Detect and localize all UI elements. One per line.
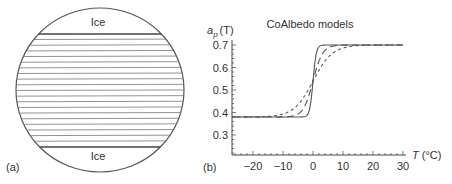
x-tick-label: 10 [337,160,349,172]
x-tick-label: 0 [310,160,316,172]
y-tick-label: 0.6 [213,62,228,74]
chart-title: CoAlbedo models [267,18,354,30]
ice-bottom-label: Ice [91,150,106,162]
y-tick-label: 0.7 [213,39,228,51]
band-line [0,96,200,97]
x-tick-label: −10 [274,160,293,172]
figure-canvas: Ice Ice (a) CoAlbedo models ap(T) 0.30.4… [0,0,452,184]
band-line [0,113,200,114]
y-tick-label: 0.3 [213,129,228,141]
y-tick-label: 0.5 [213,84,228,96]
x-tick-label: −20 [244,160,263,172]
band-line [0,62,200,63]
band-line [0,39,200,40]
curve-solid [232,45,403,117]
band-line [0,130,200,131]
band-line [0,107,200,108]
panel-a: Ice Ice (a) [0,8,200,173]
chart-axes [232,40,406,155]
band-line [0,141,200,142]
band-line [0,84,200,85]
panel-b: CoAlbedo models ap(T) 0.30.40.50.60.7 −2… [203,18,441,173]
band-line [0,124,200,125]
band-line [0,73,200,74]
curve-long-dash [232,45,403,117]
ice-top-label: Ice [91,16,106,28]
panel-b-label: (b) [203,161,216,173]
x-tick-label: 30 [397,160,409,172]
band-line [0,50,200,51]
coalbedo-curves [232,45,403,117]
y-tick-label: 0.4 [213,107,228,119]
y-axis-label: ap(T) [207,24,234,39]
band-line [0,79,200,80]
curve-short-dash [232,45,403,117]
band-line [0,56,200,57]
x-tick-labels: −20−100102030 [244,160,409,172]
ocean-band-lines [0,39,200,141]
x-axis-label: T (°C) [412,149,441,161]
band-line [0,90,200,91]
y-tick-labels: 0.30.40.50.60.7 [213,39,228,141]
band-line [0,67,200,68]
band-line [0,101,200,102]
band-line [0,118,200,119]
x-tick-label: 20 [367,160,379,172]
panel-a-label: (a) [6,161,19,173]
